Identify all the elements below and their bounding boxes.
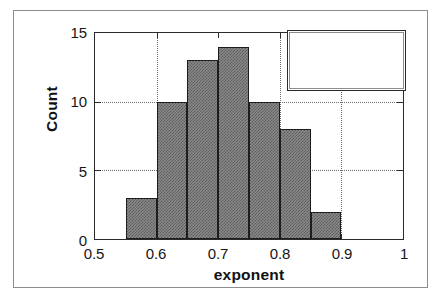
y-tick-mark-10	[95, 102, 101, 103]
y-tick-mark-5	[95, 170, 101, 171]
statistics-row-points: points 60	[293, 76, 400, 90]
histogram-bar	[249, 102, 280, 239]
x-axis-tick-labels: 0.5 0.6 0.7 0.8 0.9 1	[94, 245, 404, 265]
statistics-key-std-deviation: std Deviation	[294, 63, 366, 77]
y-tick-label-5: 5	[79, 162, 87, 179]
x-axis-title: exponent	[94, 266, 404, 284]
statistics-row-mean: mean 0.72	[293, 49, 400, 63]
histogram-bar	[157, 102, 188, 239]
statistics-title: statistics	[293, 34, 400, 49]
x-tick-mark-top-0.8	[280, 33, 281, 38]
y-tick-label-15: 15	[71, 24, 88, 41]
y-axis-tick-labels: 0 5 10 15	[52, 32, 87, 240]
histogram-bar	[280, 129, 311, 239]
statistics-value-std-deviation: 0.08	[372, 63, 400, 77]
statistics-legend-box: statistics mean 0.72 std Deviation 0.08 …	[287, 30, 406, 91]
histogram-bar	[126, 198, 157, 239]
x-tick-label-1: 1	[400, 245, 408, 262]
x-tick-label-0.8: 0.8	[270, 245, 291, 262]
statistics-value-mean: 0.72	[372, 49, 400, 63]
statistics-value-points: 60	[382, 76, 400, 90]
histogram-bar	[311, 212, 342, 239]
statistics-row-std-deviation: std Deviation 0.08	[293, 63, 400, 77]
x-tick-mark-top-0.6	[157, 33, 158, 38]
histogram-bar	[218, 47, 249, 239]
statistics-key-points: points	[294, 76, 327, 90]
statistics-key-mean: mean	[294, 49, 325, 63]
histogram-bar	[187, 60, 218, 239]
y-tick-mark-right-10	[397, 102, 403, 103]
histogram-figure: Count 0 5 10 15 0.5 0.6	[0, 0, 440, 301]
x-tick-label-0.7: 0.7	[208, 245, 229, 262]
x-tick-label-0.6: 0.6	[146, 245, 167, 262]
y-tick-mark-right-5	[397, 170, 403, 171]
x-tick-label-0.9: 0.9	[332, 245, 353, 262]
y-tick-label-10: 10	[71, 93, 88, 110]
x-tick-label-0.5: 0.5	[84, 245, 105, 262]
x-tick-mark-top-0.7	[218, 33, 219, 38]
x-tick-mark-0.9	[341, 234, 342, 239]
